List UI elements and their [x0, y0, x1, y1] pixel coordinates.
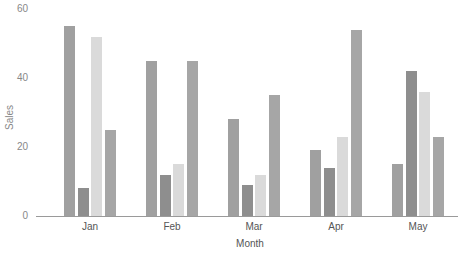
- bar-apr-series-1: [310, 150, 321, 216]
- x-tick-feb: Feb: [152, 221, 192, 232]
- bar-may-series-4: [433, 137, 444, 216]
- bar-mar-series-3: [255, 175, 266, 216]
- x-tick-may: May: [398, 221, 438, 232]
- y-tick-20: 20: [4, 141, 28, 152]
- bar-mar-series-2: [242, 185, 253, 216]
- bar-jan-series-1: [64, 26, 75, 216]
- bar-feb-series-3: [173, 164, 184, 216]
- bar-jan-series-4: [105, 130, 116, 216]
- bar-may-series-1: [392, 164, 403, 216]
- y-axis-label: Sales: [4, 103, 15, 133]
- bar-mar-series-1: [228, 119, 239, 216]
- bar-may-series-2: [406, 71, 417, 216]
- bar-apr-series-2: [324, 168, 335, 216]
- bar-jan-series-3: [91, 37, 102, 216]
- bar-may-series-3: [419, 92, 430, 216]
- bar-feb-series-4: [187, 61, 198, 216]
- bar-apr-series-4: [351, 30, 362, 216]
- x-tick-mar: Mar: [234, 221, 274, 232]
- bar-feb-series-1: [146, 61, 157, 216]
- bar-mar-series-4: [269, 95, 280, 216]
- x-axis-line: [36, 216, 458, 217]
- bar-apr-series-3: [337, 137, 348, 216]
- y-tick-60: 60: [4, 3, 28, 14]
- x-tick-jan: Jan: [70, 221, 110, 232]
- y-tick-40: 40: [4, 72, 28, 83]
- bar-feb-series-2: [160, 175, 171, 216]
- x-axis-label: Month: [225, 238, 275, 249]
- bar-jan-series-2: [78, 188, 89, 216]
- y-tick-0: 0: [4, 210, 28, 221]
- x-tick-apr: Apr: [316, 221, 356, 232]
